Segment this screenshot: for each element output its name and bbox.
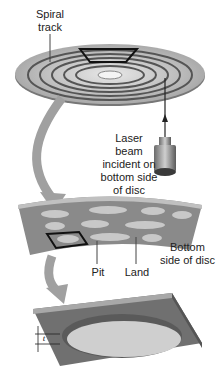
center-hole [98, 71, 122, 79]
zoom-arrow-1 [37, 98, 62, 198]
pit-closeup [33, 293, 202, 366]
label-pit: Pit [88, 266, 108, 279]
label-bottom-side: Bottom side of disc [160, 241, 217, 267]
pit-oval [67, 321, 181, 357]
disc [15, 44, 205, 106]
label-laser-beam: Laser beam incident on bottom side of di… [100, 132, 158, 197]
label-thickness: t [40, 332, 48, 345]
label-land: Land [122, 266, 152, 279]
label-spiral-track: Spiral track [30, 8, 70, 34]
laser-arrowhead [162, 114, 168, 122]
